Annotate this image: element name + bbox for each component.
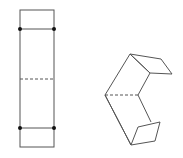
lower-panel-right — [138, 95, 151, 122]
flat-strip — [20, 10, 54, 147]
fold-diagram — [0, 0, 183, 158]
lower-flap — [131, 122, 160, 145]
upper-flap — [130, 54, 172, 74]
upper-panel — [105, 54, 150, 95]
folded-shape — [105, 54, 172, 145]
lower-panel-left — [105, 95, 131, 145]
dot-top-right — [52, 27, 56, 31]
dot-top-left — [18, 27, 22, 31]
dot-bottom-right — [52, 126, 56, 130]
dot-bottom-left — [18, 126, 22, 130]
